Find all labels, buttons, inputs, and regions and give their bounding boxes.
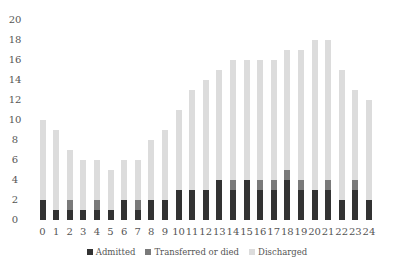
y-tick-label: 18 — [0, 34, 30, 46]
bar-segment-discharged — [176, 110, 182, 190]
bar-segment-transferred-or-died — [135, 200, 141, 210]
bar-hour-5 — [108, 170, 114, 220]
bar-segment-discharged — [257, 60, 263, 180]
bar-segment-admitted — [176, 190, 182, 220]
stacked-bar-chart: 02468101214161820 0123456789101112131415… — [0, 0, 394, 272]
bar-segment-transferred-or-died — [352, 180, 358, 190]
bar-hour-1 — [53, 130, 59, 220]
bar-segment-transferred-or-died — [298, 180, 304, 190]
bar-hour-24 — [366, 100, 372, 220]
bar-segment-admitted — [203, 190, 209, 220]
bar-segment-admitted — [230, 190, 236, 220]
bar-segment-admitted — [148, 200, 154, 220]
y-tick-label: 16 — [0, 54, 30, 66]
bar-hour-18 — [284, 50, 290, 220]
bar-hour-22 — [339, 70, 345, 220]
bar-hour-16 — [257, 60, 263, 220]
bar-segment-discharged — [298, 50, 304, 180]
y-tick-label: 4 — [0, 174, 30, 186]
bar-segment-admitted — [312, 190, 318, 220]
bar-segment-transferred-or-died — [230, 180, 236, 190]
bar-segment-discharged — [53, 130, 59, 210]
bar-segment-discharged — [352, 90, 358, 180]
bar-segment-admitted — [67, 210, 73, 220]
bar-segment-admitted — [40, 200, 46, 220]
bar-segment-admitted — [121, 200, 127, 220]
bar-hour-12 — [203, 80, 209, 220]
bar-segment-admitted — [271, 190, 277, 220]
bar-segment-admitted — [216, 180, 222, 220]
bar-hour-10 — [176, 110, 182, 220]
bar-segment-transferred-or-died — [67, 200, 73, 210]
bar-hour-20 — [312, 40, 318, 220]
bar-segment-admitted — [162, 200, 168, 220]
bar-segment-discharged — [189, 90, 195, 190]
bar-segment-admitted — [53, 210, 59, 220]
legend-swatch-icon — [87, 249, 93, 255]
y-tick-label: 0 — [0, 214, 30, 226]
bar-hour-8 — [148, 140, 154, 220]
y-tick-label: 20 — [0, 14, 30, 26]
legend-item-transferred-or-died: Transferred or died — [145, 247, 239, 257]
bar-segment-discharged — [40, 120, 46, 200]
bar-hour-2 — [67, 150, 73, 220]
bar-hour-7 — [135, 160, 141, 220]
bar-segment-discharged — [203, 80, 209, 190]
bar-segment-discharged — [284, 50, 290, 170]
bar-segment-admitted — [352, 190, 358, 220]
legend-label: Admitted — [96, 247, 136, 257]
bar-segment-transferred-or-died — [271, 180, 277, 190]
bar-hour-15 — [244, 60, 250, 220]
bar-segment-transferred-or-died — [257, 180, 263, 190]
bar-segment-discharged — [366, 100, 372, 200]
bar-segment-admitted — [189, 190, 195, 220]
bar-segment-discharged — [325, 40, 331, 180]
bar-segment-discharged — [94, 160, 100, 200]
legend-item-admitted: Admitted — [87, 247, 136, 257]
bar-segment-discharged — [148, 140, 154, 200]
bar-hour-21 — [325, 40, 331, 220]
bar-hour-17 — [271, 60, 277, 220]
bar-segment-discharged — [230, 60, 236, 180]
bar-segment-admitted — [244, 180, 250, 220]
bar-segment-discharged — [312, 40, 318, 190]
bar-hour-0 — [40, 120, 46, 220]
bar-segment-transferred-or-died — [94, 200, 100, 210]
x-tick-label: 24 — [361, 226, 377, 238]
bar-segment-admitted — [366, 200, 372, 220]
bar-segment-admitted — [257, 190, 263, 220]
bar-segment-transferred-or-died — [325, 180, 331, 190]
bar-segment-admitted — [298, 190, 304, 220]
bar-segment-admitted — [94, 210, 100, 220]
bar-hour-3 — [80, 160, 86, 220]
legend-swatch-icon — [249, 249, 255, 255]
bar-segment-discharged — [216, 70, 222, 180]
y-tick-label: 12 — [0, 94, 30, 106]
bar-segment-admitted — [339, 200, 345, 220]
legend-label: Transferred or died — [154, 247, 239, 257]
legend-label: Discharged — [258, 247, 307, 257]
bar-segment-transferred-or-died — [284, 170, 290, 180]
bar-segment-admitted — [108, 210, 114, 220]
y-tick-label: 14 — [0, 74, 30, 86]
bar-hour-23 — [352, 90, 358, 220]
bar-segment-discharged — [339, 70, 345, 200]
bar-segment-discharged — [135, 160, 141, 200]
bar-segment-discharged — [121, 160, 127, 200]
bar-hour-9 — [162, 130, 168, 220]
bar-hour-11 — [189, 90, 195, 220]
bar-segment-discharged — [271, 60, 277, 180]
bar-segment-admitted — [284, 180, 290, 220]
y-tick-label: 2 — [0, 194, 30, 206]
bar-hour-13 — [216, 70, 222, 220]
bar-segment-admitted — [80, 210, 86, 220]
y-tick-label: 6 — [0, 154, 30, 166]
bar-hour-6 — [121, 160, 127, 220]
bar-segment-discharged — [244, 60, 250, 180]
legend-swatch-icon — [145, 249, 151, 255]
bar-segment-admitted — [325, 190, 331, 220]
bar-hour-4 — [94, 160, 100, 220]
bar-segment-discharged — [108, 170, 114, 210]
legend-item-discharged: Discharged — [249, 247, 307, 257]
bar-segment-discharged — [67, 150, 73, 200]
